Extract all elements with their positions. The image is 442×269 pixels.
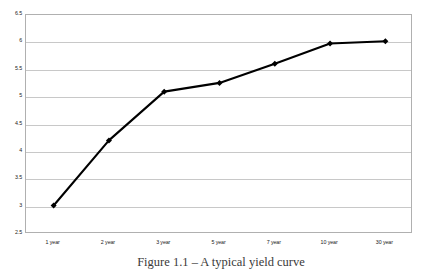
data-point-marker bbox=[217, 80, 223, 86]
x-axis-tick-label: 2 year bbox=[86, 239, 130, 245]
y-axis-tick-label: 2.5 bbox=[2, 230, 22, 235]
line-series bbox=[26, 15, 413, 234]
y-axis-tick-label: 3 bbox=[2, 203, 22, 208]
series-line bbox=[54, 41, 386, 205]
data-point-marker bbox=[382, 38, 388, 44]
x-axis-tick-label: 3 year bbox=[141, 239, 185, 245]
x-axis-tick-label: 5 year bbox=[197, 239, 241, 245]
y-axis-tick-label: 5.5 bbox=[2, 66, 22, 71]
x-axis-tick-label: 1 year bbox=[31, 239, 75, 245]
y-axis-tick-label: 4 bbox=[2, 148, 22, 153]
plot-area bbox=[25, 14, 412, 233]
y-axis-tick-label: 6 bbox=[2, 38, 22, 43]
y-axis-tick-label: 4.5 bbox=[2, 121, 22, 126]
y-axis-tick-label: 3.5 bbox=[2, 175, 22, 180]
x-axis-tick-label: 7 year bbox=[252, 239, 296, 245]
figure-caption: Figure 1.1 – A typical yield curve bbox=[0, 256, 442, 269]
x-axis-tick-label: 30 year bbox=[362, 239, 406, 245]
y-axis-tick-label: 5 bbox=[2, 93, 22, 98]
x-axis-tick-label: 10 year bbox=[307, 239, 351, 245]
data-point-marker bbox=[327, 40, 333, 46]
series-markers bbox=[51, 38, 389, 208]
y-axis-tick-label: 6.5 bbox=[2, 11, 22, 16]
data-point-marker bbox=[272, 61, 278, 67]
